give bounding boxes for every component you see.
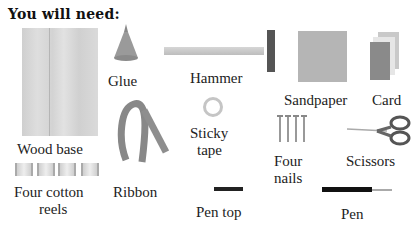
sticky-tape-icon [203,97,223,117]
pen-icon [322,187,372,192]
glue-icon [113,24,139,62]
wood-base-image [22,28,98,136]
pen-top-icon [214,187,243,191]
cotton-reels-label-line1: Four cotton [14,184,84,200]
cotton-reel-icon [58,163,76,176]
sandpaper-label: Sandpaper [284,92,347,108]
scissors-icon [345,115,415,147]
ribbon-label: Ribbon [113,184,157,200]
sandpaper-image [298,31,347,82]
cotton-reel-icon [81,163,99,176]
pen-label: Pen [341,206,364,222]
scissors-label: Scissors [346,153,395,169]
sticky-tape-label-line1: Sticky [190,125,228,141]
nail-icon [287,115,289,142]
hammer-handle [164,47,264,55]
page-title: You will need: [8,6,120,22]
cotton-reel-icon [15,163,33,176]
glue-label: Glue [108,73,137,89]
pen-top-label: Pen top [196,204,241,220]
cotton-reel-icon [37,163,55,176]
card-label: Card [372,92,401,108]
nail-icon [279,115,281,142]
wood-grain [49,28,50,136]
nail-icon [295,115,297,142]
hammer-icon [267,30,275,72]
hammer-label: Hammer [190,70,242,86]
four-nails-label-line2: nails [274,170,302,186]
nail-icon [303,115,305,142]
card-sheet-front [370,42,390,80]
pen-tip [372,189,392,191]
cotton-reels-label-line2: reels [39,201,67,217]
ribbon-icon [116,100,172,164]
sticky-tape-label-line2: tape [197,142,222,158]
four-nails-label-line1: Four [274,153,302,169]
wood-base-label: Wood base [17,141,83,157]
